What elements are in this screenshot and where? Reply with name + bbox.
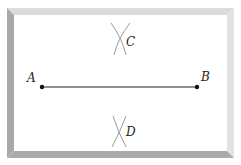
point-b-dot xyxy=(195,85,199,89)
arc-from-a-upper xyxy=(111,23,126,55)
point-d-label: D xyxy=(126,126,136,138)
point-a-label: A xyxy=(27,72,36,84)
point-b-label: B xyxy=(201,71,210,83)
point-a-dot xyxy=(40,85,44,89)
point-c-label: C xyxy=(126,36,135,48)
